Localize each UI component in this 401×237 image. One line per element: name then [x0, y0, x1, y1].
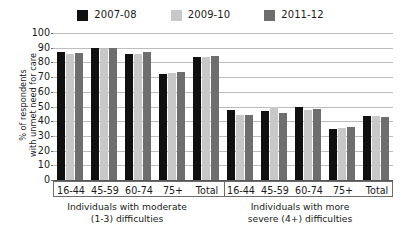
category-label-75+: 75+	[326, 184, 360, 197]
panel-caption-severe: Individuals with more severe (4+) diffic…	[215, 201, 385, 224]
bar-2007-08-45-59	[91, 48, 99, 180]
bar-2009-10-60-74	[134, 54, 142, 180]
y-tick-label-80: 80	[22, 57, 50, 67]
bar-2007-08-60-74	[295, 107, 303, 181]
category-label-45-59: 45-59	[258, 184, 292, 197]
y-tick-label-10: 10	[22, 160, 50, 170]
y-tick-label-30: 30	[22, 131, 50, 141]
legend-label-2011-12: 2011-12	[281, 10, 323, 20]
bar-group	[57, 33, 83, 180]
bar-2007-08-16-44	[57, 52, 65, 180]
plot-area	[53, 33, 393, 180]
legend-swatch-2009-10	[171, 10, 182, 21]
y-tick-label-40: 40	[22, 116, 50, 126]
y-tick-label-50: 50	[22, 102, 50, 112]
category-label-Total: Total	[190, 184, 224, 197]
y-tick-label-0: 0	[22, 175, 50, 185]
panel-caption-moderate-line2: (1-3) difficulties	[42, 213, 212, 225]
bar-2009-10-16-44	[66, 54, 74, 180]
bar-group	[193, 33, 219, 180]
category-label-60-74: 60-74	[292, 184, 326, 197]
category-axis: 16-4445-5960-7475+Total16-4445-5960-7475…	[53, 181, 393, 197]
bar-2009-10-45-59	[270, 107, 278, 181]
bar-group	[329, 33, 355, 180]
legend-item-2009-10: 2009-10	[171, 10, 230, 21]
panel-caption-moderate-line1: Individuals with moderate	[42, 201, 212, 213]
bar-2009-10-75+	[338, 128, 346, 180]
bar-2011-12-60-74	[313, 109, 321, 180]
bar-group	[91, 33, 117, 180]
panel-caption-moderate: Individuals with moderate (1-3) difficul…	[42, 201, 212, 224]
bar-chart: 2007-08 2009-10 2011-12 % of respondents…	[0, 0, 401, 237]
bar-2007-08-Total	[193, 57, 201, 180]
bar-2011-12-45-59	[279, 113, 287, 180]
bar-2011-12-45-59	[109, 48, 117, 180]
bar-group	[295, 33, 321, 180]
y-tick-label-70: 70	[22, 72, 50, 82]
bar-group	[227, 33, 253, 180]
panel-caption-severe-line2: severe (4+) difficulties	[215, 213, 385, 225]
category-label-60-74: 60-74	[122, 184, 156, 197]
bar-2009-10-75+	[168, 73, 176, 180]
bar-2007-08-75+	[159, 74, 167, 180]
legend-item-2007-08: 2007-08	[77, 10, 136, 21]
category-label-75+: 75+	[156, 184, 190, 197]
bars-container	[53, 33, 393, 180]
category-label-16-44: 16-44	[54, 184, 88, 197]
bar-2007-08-75+	[329, 129, 337, 180]
bar-group	[125, 33, 151, 180]
bar-2009-10-Total	[202, 57, 210, 180]
bar-2011-12-Total	[381, 117, 389, 180]
legend-label-2009-10: 2009-10	[188, 10, 230, 20]
bar-2011-12-16-44	[75, 53, 83, 180]
y-tick-label-90: 90	[22, 43, 50, 53]
y-tick-label-100: 100	[22, 28, 50, 38]
bar-2011-12-Total	[211, 56, 219, 180]
bar-2011-12-16-44	[245, 115, 253, 180]
category-label-Total: Total	[360, 184, 394, 197]
legend-item-2011-12: 2011-12	[264, 10, 323, 21]
bar-2007-08-16-44	[227, 110, 235, 180]
legend-label-2007-08: 2007-08	[94, 10, 136, 20]
bar-2011-12-75+	[347, 127, 355, 180]
bar-group	[159, 33, 185, 180]
bar-2009-10-60-74	[304, 110, 312, 180]
bar-2011-12-60-74	[143, 52, 151, 180]
bar-2011-12-75+	[177, 72, 185, 180]
chart-legend: 2007-08 2009-10 2011-12	[0, 6, 401, 24]
bar-group	[363, 33, 389, 180]
category-label-45-59: 45-59	[88, 184, 122, 197]
bar-2007-08-Total	[363, 116, 371, 180]
legend-swatch-2007-08	[77, 10, 88, 21]
bar-2009-10-Total	[372, 116, 380, 180]
bar-2007-08-45-59	[261, 111, 269, 180]
y-tick-label-60: 60	[22, 87, 50, 97]
bar-2009-10-45-59	[100, 49, 108, 180]
bar-2007-08-60-74	[125, 54, 133, 180]
legend-swatch-2011-12	[264, 10, 275, 21]
bar-2009-10-16-44	[236, 115, 244, 180]
y-tick-label-20: 20	[22, 146, 50, 156]
category-label-16-44: 16-44	[224, 184, 258, 197]
y-axis-tick-labels: 1009080706050403020100	[22, 33, 50, 180]
bar-group	[261, 33, 287, 180]
panel-caption-severe-line1: Individuals with more	[215, 201, 385, 213]
